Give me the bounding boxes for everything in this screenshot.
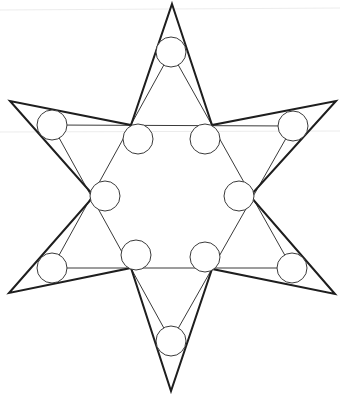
circle-slot-upper-right-tip bbox=[278, 111, 308, 141]
circle-slot-inner-lower-left bbox=[121, 240, 151, 270]
circle-slot-lower-right-tip bbox=[277, 253, 307, 283]
circle-slots bbox=[37, 37, 308, 356]
triangle-down-line bbox=[52, 125, 293, 341]
circle-slot-bottom bbox=[156, 326, 186, 356]
circle-slot-top bbox=[156, 37, 186, 67]
circle-slot-lower-left-tip bbox=[37, 253, 67, 283]
triangle-up-line bbox=[52, 52, 292, 268]
circle-slot-inner-lower-right bbox=[190, 242, 220, 272]
hexagram-diagram bbox=[0, 0, 340, 399]
circle-slot-inner-upper-right bbox=[190, 124, 220, 154]
circle-slot-middle-left bbox=[90, 181, 120, 211]
circle-slot-middle-right bbox=[224, 181, 254, 211]
circle-slot-upper-left-tip bbox=[37, 110, 67, 140]
inner-triangles bbox=[52, 52, 293, 341]
circle-slot-inner-upper-left bbox=[123, 124, 153, 154]
